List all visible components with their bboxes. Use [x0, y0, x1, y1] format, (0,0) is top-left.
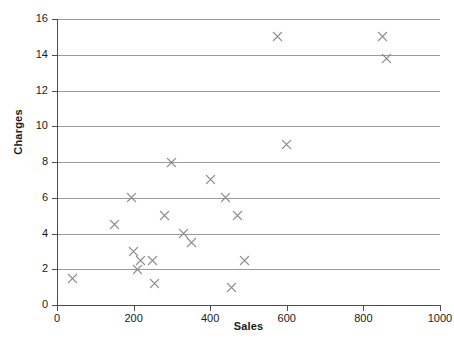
scatter-chart-figure: Charges Sales 0246810121416 020040060080…: [0, 0, 454, 347]
y-tick-label: 4: [22, 227, 48, 239]
y-tick-label: 10: [22, 119, 48, 131]
x-tick-label: 400: [188, 312, 232, 324]
data-point-marker: [377, 31, 388, 42]
data-point-marker: [239, 255, 250, 266]
x-tick: [287, 306, 288, 311]
x-tick-label: 600: [265, 312, 309, 324]
x-tick: [57, 306, 58, 311]
data-point-marker: [281, 139, 292, 150]
y-tick-label: 14: [22, 48, 48, 60]
x-tick: [210, 306, 211, 311]
y-tick-label: 0: [22, 298, 48, 310]
data-point-marker: [205, 174, 216, 185]
x-tick-label: 1000: [418, 312, 454, 324]
data-point-marker: [126, 192, 137, 203]
data-point-marker: [67, 273, 78, 284]
data-point-marker: [186, 237, 197, 248]
data-point-marker: [220, 192, 231, 203]
data-point-marker: [135, 255, 146, 266]
x-tick-label: 0: [35, 312, 79, 324]
data-point-marker: [159, 210, 170, 221]
x-tick-label: 200: [112, 312, 156, 324]
x-tick-label: 800: [341, 312, 385, 324]
data-point-marker: [109, 219, 120, 230]
data-point-marker: [166, 157, 177, 168]
x-tick: [134, 306, 135, 311]
data-point-marker: [272, 31, 283, 42]
data-point-marker: [232, 210, 243, 221]
plot-area: [57, 19, 440, 305]
y-tick-label: 2: [22, 262, 48, 274]
data-point-marker: [149, 278, 160, 289]
y-tick-label: 8: [22, 155, 48, 167]
y-tick-label: 12: [22, 84, 48, 96]
data-point-marker: [147, 255, 158, 266]
x-tick: [440, 306, 441, 311]
data-point-marker: [381, 53, 392, 64]
data-point-marker: [226, 282, 237, 293]
x-axis-line: [57, 305, 441, 306]
y-tick-label: 6: [22, 191, 48, 203]
x-tick: [363, 306, 364, 311]
y-tick-label: 16: [22, 12, 48, 24]
